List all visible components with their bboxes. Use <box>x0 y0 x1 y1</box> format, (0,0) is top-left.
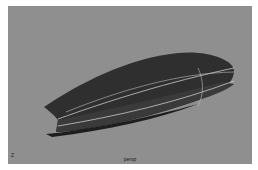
3d-viewport[interactable]: Z persp <box>8 6 252 164</box>
hull-model[interactable] <box>8 6 252 164</box>
camera-label: persp <box>8 156 252 162</box>
